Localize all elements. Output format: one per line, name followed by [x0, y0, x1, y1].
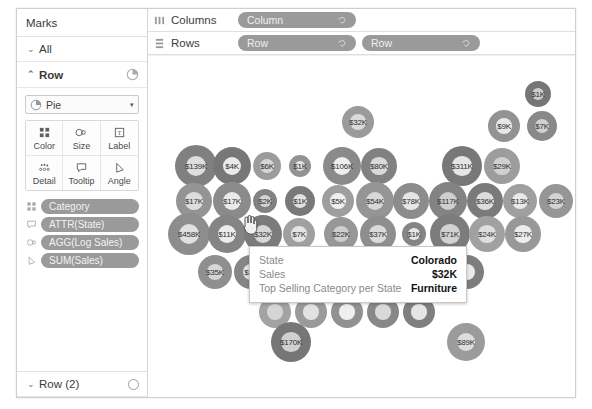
bubble-label: $29K	[493, 162, 511, 171]
bubble-mark[interactable]: $2K	[253, 189, 277, 213]
bubble-mark[interactable]: $6K	[253, 152, 281, 180]
bubble-inner-hole	[303, 304, 318, 319]
marks-shelf-row[interactable]: ⌃ Row	[17, 62, 147, 88]
tooltip-value-state: Colorado	[411, 253, 457, 267]
bubble-label: $23K	[547, 197, 565, 206]
mark-properties-grid: Color Size T Label	[25, 120, 139, 191]
bubble-mark[interactable]: $35K	[198, 255, 232, 289]
marks-field-log-sales-pill[interactable]: AGG(Log Sales)	[41, 235, 139, 250]
marks-field-category[interactable]: Category	[25, 199, 139, 214]
bubble-mark[interactable]: $4K	[213, 147, 251, 185]
bubble-inner-hole	[339, 304, 354, 319]
bubble-mark[interactable]: $1K	[402, 222, 426, 246]
rows-shelf-label: Rows	[171, 37, 200, 49]
bubble-mark[interactable]: $36K	[467, 183, 503, 219]
label-text-icon: T	[102, 125, 137, 139]
columns-pill-column[interactable]: Column	[238, 12, 356, 28]
bubble-inner-hole	[375, 304, 390, 319]
bubble-mark[interactable]: $24K	[469, 216, 505, 252]
bubble-mark[interactable]: $80K	[361, 148, 397, 184]
pill-menu-icon[interactable]	[462, 39, 471, 48]
bubble-map-canvas[interactable]: $1K$32K$9K$7K$139K$4K$6K$1K$106K$80K$311…	[148, 55, 575, 397]
bubble-label: $54K	[366, 197, 384, 206]
bubble-mark[interactable]: $27K	[505, 216, 541, 252]
marks-field-sum-sales[interactable]: SUM(Sales)	[25, 253, 139, 268]
chevron-down-icon[interactable]: ⌄	[25, 45, 37, 54]
marks-shelf-all[interactable]: ⌄ All	[17, 37, 147, 62]
bubble-mark[interactable]: $78K	[393, 183, 429, 219]
bubble-mark[interactable]: $458K	[168, 213, 210, 255]
mouse-cursor-pointer	[241, 214, 258, 237]
bubble-mark[interactable]: $54K	[356, 182, 394, 220]
mark-property-tooltip[interactable]: Tooltip	[63, 156, 100, 190]
pill-menu-icon[interactable]	[338, 16, 347, 25]
columns-shelf[interactable]: Columns Column	[148, 9, 575, 32]
bubble-mark[interactable]: $1K	[289, 155, 311, 177]
bubble-label: $2K	[258, 197, 272, 206]
bubble-mark[interactable]: $9K	[488, 110, 520, 142]
bubble-label: $80K	[370, 162, 388, 171]
chevron-up-icon[interactable]: ⌃	[25, 70, 37, 79]
bubble-mark[interactable]: $5K	[322, 185, 354, 217]
bubble-label: $24K	[478, 230, 496, 239]
bubble-mark[interactable]: $89K	[447, 323, 485, 361]
bubble-label: $17K	[223, 197, 241, 206]
bubble-label: $4K	[225, 162, 239, 171]
bubble-label: $1K	[293, 162, 307, 171]
mark-type-dropdown[interactable]: Pie ▾	[25, 95, 139, 114]
bubble-label: $458K	[178, 230, 200, 239]
mark-property-size[interactable]: Size	[63, 121, 100, 156]
bubble-mark[interactable]: $29K	[484, 148, 520, 184]
angle-icon	[25, 255, 38, 266]
marks-field-log-sales[interactable]: AGG(Log Sales)	[25, 235, 139, 250]
mark-type-label: Pie	[46, 99, 130, 111]
bubble-label: $1K	[531, 90, 545, 99]
columns-icon	[154, 15, 165, 26]
marks-card-body: Pie ▾ Color Siz	[17, 88, 147, 367]
mark-property-angle-label: Angle	[102, 176, 137, 187]
bubble-mark[interactable]: $139K	[175, 145, 217, 187]
bubble-mark[interactable]: $13K	[503, 184, 537, 218]
mark-property-angle[interactable]: Angle	[101, 156, 138, 190]
bubble-label: $11K	[218, 230, 235, 239]
marks-shelf-row-2-label: Row (2)	[37, 378, 128, 390]
bubble-label: $13K	[511, 197, 529, 206]
rows-pill-row-1[interactable]: Row	[238, 35, 356, 51]
marks-card-fields: Category ATTR(State) AGG(Log Sales)	[25, 199, 139, 271]
bubble-label: $89K	[457, 338, 475, 347]
mark-property-label[interactable]: T Label	[101, 121, 138, 156]
bubble-mark[interactable]: $170K	[271, 322, 311, 362]
marks-field-category-pill[interactable]: Category	[41, 199, 139, 214]
bubble-label: $32K	[349, 118, 367, 127]
bubble-mark[interactable]: $311K	[442, 146, 482, 186]
marks-field-sum-sales-pill[interactable]: SUM(Sales)	[41, 253, 139, 268]
mark-property-detail[interactable]: Detail	[26, 156, 63, 190]
rows-pill-row-2[interactable]: Row	[362, 35, 480, 51]
bubble-mark[interactable]: $1K	[285, 186, 315, 216]
bubble-label: $106K	[331, 162, 353, 171]
marks-field-state[interactable]: ATTR(State)	[25, 217, 139, 232]
bubble-mark[interactable]: $7K	[527, 111, 557, 141]
bubble-label: $311K	[451, 162, 473, 171]
color-squares-icon	[27, 125, 61, 139]
bubble-mark[interactable]: $1K	[525, 81, 551, 107]
mark-property-color-label: Color	[27, 141, 61, 152]
bubble-label: $9K	[497, 122, 511, 131]
bubble-mark[interactable]: $106K	[323, 147, 361, 185]
marks-shelf-row-2[interactable]: ⌄ Row (2)	[17, 371, 147, 397]
chevron-down-icon[interactable]: ⌄	[25, 380, 37, 389]
tableau-worksheet-window: Marks ⌄ All ⌃ Row Pie ▾	[16, 8, 576, 398]
rows-shelf[interactable]: Rows Row Row	[148, 32, 575, 55]
rows-pill-row-1-label: Row	[247, 35, 338, 51]
mark-property-label-label: Label	[102, 141, 137, 152]
bubble-mark[interactable]: $32K	[342, 106, 374, 138]
pill-menu-icon[interactable]	[338, 39, 347, 48]
chevron-down-icon[interactable]: ▾	[130, 101, 134, 109]
tooltip-row-sales: Sales $32K	[259, 267, 457, 281]
marks-field-state-pill[interactable]: ATTR(State)	[41, 217, 139, 232]
bubble-label: $36K	[476, 197, 494, 206]
mark-property-color[interactable]: Color	[26, 121, 63, 156]
mark-property-tooltip-label: Tooltip	[64, 176, 98, 187]
bubble-label: $6K	[260, 162, 274, 171]
bubble-mark[interactable]: $23K	[539, 184, 573, 218]
